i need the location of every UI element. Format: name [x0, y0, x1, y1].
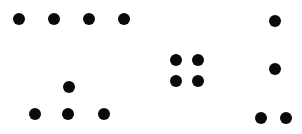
dot	[29, 108, 41, 120]
dot	[83, 13, 95, 25]
dot	[13, 13, 25, 25]
dot	[280, 112, 292, 124]
dot	[48, 13, 60, 25]
dot	[63, 81, 75, 93]
dot	[170, 75, 182, 87]
dot	[192, 75, 204, 87]
dot	[255, 112, 267, 124]
dot	[170, 54, 182, 66]
dot-canvas	[0, 0, 302, 134]
dot	[62, 108, 74, 120]
dot	[118, 13, 130, 25]
dot	[269, 15, 281, 27]
dot	[269, 63, 281, 75]
dot	[192, 54, 204, 66]
dot	[98, 108, 110, 120]
